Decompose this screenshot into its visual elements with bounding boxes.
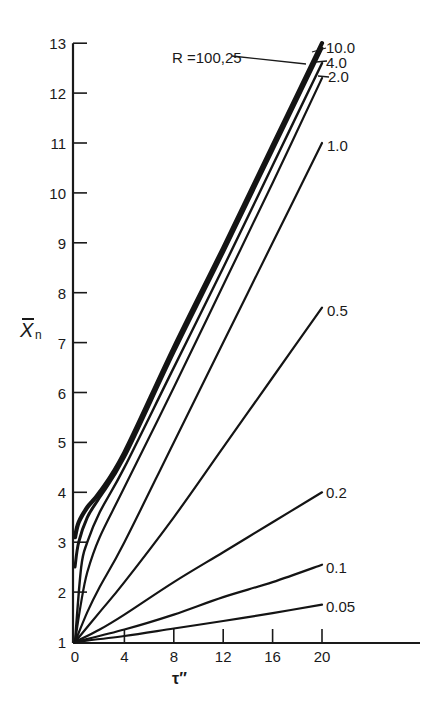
curve-label-2.0: 2.0 — [328, 68, 349, 85]
y-axis-title-subscript: n — [35, 328, 42, 342]
y-tick-label: 13 — [49, 35, 66, 52]
x-tick-label: 8 — [170, 648, 178, 665]
y-tick-label: 5 — [58, 434, 66, 451]
y-tick-label: 11 — [50, 135, 66, 152]
curve-label-R=100,25: R =100,25 — [172, 49, 242, 66]
y-tick-label: 12 — [49, 85, 66, 102]
curve-label-0.1: 0.1 — [326, 559, 347, 576]
y-tick-label: 1 — [58, 634, 66, 651]
x-tick-label: 16 — [264, 648, 281, 665]
chart: 12345678910111213048121620 R =100,2510.0… — [0, 0, 446, 711]
curve-label-1.0: 1.0 — [327, 137, 348, 154]
x-axis-title: τ″ — [172, 670, 187, 687]
curve-R-R=100,25 — [75, 43, 322, 537]
y-tick-label: 8 — [58, 285, 66, 302]
y-axis-title: X — [19, 319, 34, 341]
x-tick-label: 20 — [314, 648, 331, 665]
y-tick-label: 7 — [58, 335, 66, 352]
curve-label-0.2: 0.2 — [326, 484, 347, 501]
curve-R-0.1 — [75, 565, 322, 642]
x-tick-label: 12 — [215, 648, 232, 665]
x-tick-label: 0 — [71, 648, 79, 665]
curve-label-0.5: 0.5 — [327, 302, 348, 319]
y-tick-label: 6 — [58, 385, 66, 402]
y-tick-label: 9 — [58, 235, 66, 252]
curves — [75, 43, 322, 642]
y-tick-label: 10 — [49, 185, 66, 202]
x-tick-label: 4 — [120, 648, 128, 665]
y-tick-label: 4 — [58, 484, 66, 501]
label-leader — [232, 56, 306, 64]
curve-R-4.0 — [75, 63, 322, 642]
y-tick-label: 2 — [58, 584, 66, 601]
y-tick-label: 3 — [58, 534, 66, 551]
curve-label-0.05: 0.05 — [326, 598, 355, 615]
axes: 12345678910111213048121620 — [49, 35, 420, 665]
